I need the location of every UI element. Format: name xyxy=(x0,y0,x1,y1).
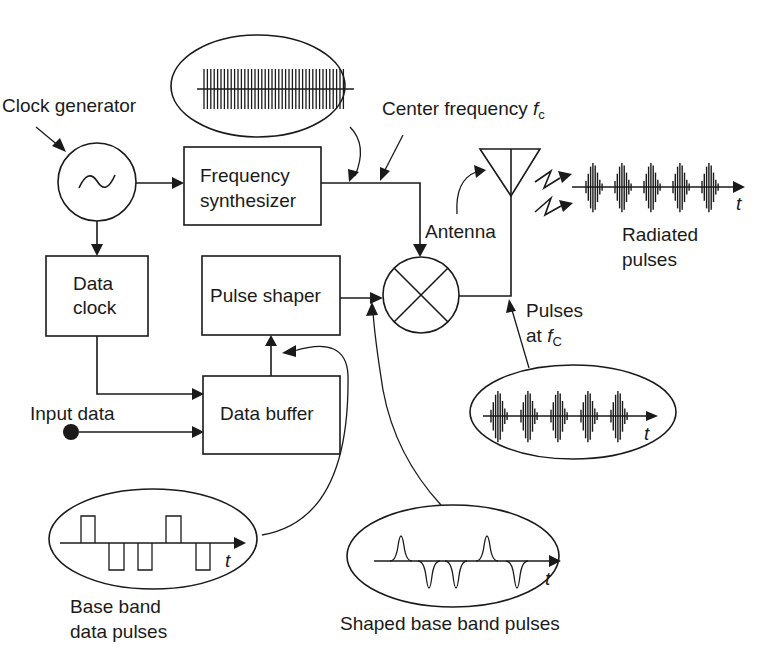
radiated-label-line2: pulses xyxy=(622,249,677,270)
radiation-icon xyxy=(535,171,573,215)
arrowhead xyxy=(172,177,184,189)
freq-synth-label-line2: synthesizer xyxy=(200,190,297,211)
shaped-pulses-label: Shaped base band pulses xyxy=(340,613,560,634)
arrowhead xyxy=(413,244,427,257)
carrier-pointer xyxy=(350,127,360,176)
radiated-label-line1: Radiated xyxy=(622,224,698,245)
antenna-pointer xyxy=(457,172,476,214)
arrowhead xyxy=(380,167,390,181)
pulse-shaper-label: Pulse shaper xyxy=(210,285,322,306)
time-axis-label: t xyxy=(736,193,742,214)
connector-synth-to-mixer xyxy=(321,183,420,249)
shaped-pulses-inset: t xyxy=(347,505,561,607)
shaped-pointer xyxy=(373,312,441,505)
antenna-label: Antenna xyxy=(425,221,496,242)
input-data-terminal xyxy=(63,424,79,440)
clock-generator-oscillator xyxy=(58,143,136,221)
input-data-label: Input data xyxy=(30,403,115,424)
antenna-icon xyxy=(480,149,540,196)
baseband-label-line2: data pulses xyxy=(70,621,167,642)
data-buffer-block: Data buffer xyxy=(203,376,340,454)
center-frequency-label: Center frequency fc xyxy=(382,98,545,122)
clock-generator-label: Clock generator xyxy=(2,95,137,116)
connector-mixer-to-antenna xyxy=(459,196,511,296)
data-clock-label-line2: clock xyxy=(73,297,117,318)
arrowhead xyxy=(265,335,277,346)
pulses-at-fc-label-line1: Pulses xyxy=(526,300,583,321)
arrowhead xyxy=(91,244,103,256)
data-clock-block: Data clock xyxy=(46,256,148,336)
baseband-pulses-inset: t xyxy=(49,489,257,589)
frequency-synthesizer-block: Frequency synthesizer xyxy=(184,147,321,225)
time-axis-label: t xyxy=(225,550,231,571)
arrowhead xyxy=(366,302,378,316)
pulse-shaper-block: Pulse shaper xyxy=(202,256,340,335)
arrowhead xyxy=(506,299,516,313)
transmitter-block-diagram: Clock generator Frequency synthesizer Ce… xyxy=(0,0,764,668)
baseband-label-line1: Base band xyxy=(70,596,161,617)
connector-dataclock-to-buffer xyxy=(97,336,196,394)
modulated-pulses-inset: t xyxy=(470,365,676,459)
pulses-at-fc-label-line2: at fC xyxy=(526,325,562,349)
radiated-pulses-waveform: t xyxy=(572,163,745,214)
arrowhead xyxy=(282,345,296,357)
arrowhead xyxy=(52,138,66,152)
time-axis-label: t xyxy=(644,423,650,444)
sine-wave-icon xyxy=(79,175,115,188)
mixer-multiplier xyxy=(383,257,459,333)
freq-synth-label-line1: Frequency xyxy=(200,165,290,186)
data-buffer-label: Data buffer xyxy=(220,403,314,424)
time-axis-label: t xyxy=(545,568,551,589)
arrowhead xyxy=(474,165,486,178)
data-clock-label-line1: Data xyxy=(73,273,114,294)
center-frequency-pointer xyxy=(385,135,403,170)
carrier-waveform-inset xyxy=(171,35,354,137)
baseband-pointer xyxy=(262,346,348,535)
